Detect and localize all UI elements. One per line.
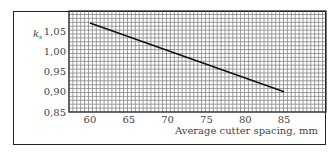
x-tick-label: 65	[122, 114, 135, 125]
x-tick-label: 75	[200, 114, 213, 125]
x-axis-ticks: 606570758085	[84, 114, 291, 125]
y-axis-ticks: 1,051,000,950,900,85	[44, 26, 66, 118]
y-tick-label: 1,05	[44, 26, 66, 37]
y-tick-label: 0,95	[44, 66, 66, 77]
x-tick-label: 70	[161, 114, 174, 125]
y-axis-label: ks	[33, 28, 42, 40]
y-tick-label: 0,85	[44, 107, 66, 118]
x-axis-label: Average cutter spacing, mm	[174, 125, 319, 136]
chart-plot: 1,051,000,950,900,85 606570758085 ks Ave…	[0, 0, 336, 154]
y-tick-label: 1,00	[44, 46, 66, 57]
y-tick-label: 0,90	[44, 86, 66, 97]
x-tick-label: 60	[84, 114, 97, 125]
x-tick-label: 85	[278, 114, 291, 125]
x-tick-label: 80	[239, 114, 252, 125]
